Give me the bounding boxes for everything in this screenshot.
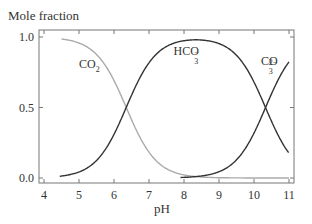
series-label: HCO3−	[174, 44, 200, 66]
mole-fraction-chart: Mole fraction 4567891011 0.00.51.0 CO2HC…	[0, 0, 312, 224]
x-tick-label: 10	[248, 188, 260, 202]
x-tick-label: 4	[41, 188, 47, 202]
series-label: CO2	[79, 57, 100, 74]
plot-frame	[39, 30, 294, 183]
x-axis-ticks: 4567891011	[41, 30, 295, 202]
y-tick-label: 0.0	[19, 171, 34, 185]
y-tick-label: 1.0	[19, 30, 34, 44]
series-label: CO32−	[261, 54, 278, 76]
y-axis-label: Mole fraction	[8, 8, 80, 23]
x-tick-label: 6	[111, 188, 117, 202]
x-tick-label: 7	[146, 188, 152, 202]
y-tick-label: 0.5	[19, 101, 34, 115]
x-tick-label: 8	[181, 188, 187, 202]
x-tick-label: 9	[216, 188, 222, 202]
x-tick-label: 5	[76, 188, 82, 202]
x-axis-label: pH	[154, 201, 170, 216]
x-tick-label: 11	[283, 188, 295, 202]
series-line	[181, 62, 290, 178]
